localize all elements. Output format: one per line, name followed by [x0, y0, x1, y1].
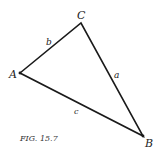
vertex-b-dot — [142, 135, 145, 138]
figure-caption: FIG. 15.7 — [19, 134, 59, 143]
side-label-a: a — [114, 70, 119, 80]
vertex-a-dot — [19, 72, 22, 75]
vertex-label-c: C — [77, 9, 86, 22]
vertex-label-b: B — [144, 137, 153, 150]
triangle-diagram: C A B b a c FIG. 15.7 — [0, 0, 162, 155]
vertex-label-a: A — [8, 68, 17, 81]
side-label-c: c — [74, 107, 79, 116]
side-label-b: b — [46, 37, 52, 47]
triangle-abc — [20, 23, 143, 136]
